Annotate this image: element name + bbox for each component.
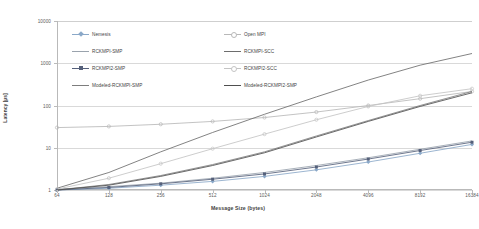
legend-item-open-mpi[interactable]: Open MPI xyxy=(224,26,354,43)
gridline-10000 xyxy=(58,21,472,22)
x-tick-mark xyxy=(420,190,421,193)
y-tick-label: 10 xyxy=(46,145,51,150)
legend-symbol-icon xyxy=(72,82,89,89)
legend-symbol-icon xyxy=(72,48,89,55)
y-tick-label: 10000 xyxy=(38,19,51,24)
x-tick-label: 128 xyxy=(105,193,113,198)
y-axis: 100001000100101 xyxy=(0,0,57,229)
gridline-10 xyxy=(58,148,472,149)
legend-label: RCKMPI2-SMP xyxy=(92,66,125,71)
x-tick-mark xyxy=(109,190,110,193)
x-tick-label: 512 xyxy=(209,193,217,198)
x-tick-label: 2048 xyxy=(311,193,322,198)
legend-label: Open MPI xyxy=(244,32,266,37)
x-tick-label: 256 xyxy=(157,193,165,198)
legend-symbol-icon xyxy=(72,65,89,72)
x-tick-label: 16384 xyxy=(465,193,478,198)
x-axis-title: Message Size (bytes) xyxy=(0,205,476,211)
x-tick-label: 8192 xyxy=(415,193,426,198)
legend-item-rckmpi2-scc[interactable]: RCKMPI2-SCC xyxy=(224,60,354,77)
y-tick-label: 1000 xyxy=(40,61,51,66)
x-tick-label: 64 xyxy=(54,193,59,198)
legend-item-modeled-rckmpi-smp[interactable]: Modeled-RCKMPI-SMP xyxy=(72,77,190,94)
legend-symbol-icon xyxy=(224,31,241,38)
legend-symbol-icon xyxy=(224,65,241,72)
chart-legend: NemesisOpen MPIRCKMPI-SMPRCKMPI-SCCRCKMP… xyxy=(72,26,352,94)
y-tick-label: 100 xyxy=(43,103,51,108)
legend-item-rckmpi-scc[interactable]: RCKMPI-SCC xyxy=(224,43,354,60)
x-tick-mark xyxy=(368,190,369,193)
legend-item-rckmpi-smp[interactable]: RCKMPI-SMP xyxy=(72,43,190,60)
legend-symbol-icon xyxy=(224,82,241,89)
legend-item-rckmpi2-smp[interactable]: RCKMPI2-SMP xyxy=(72,60,190,77)
legend-label: Modeled-RCKMPI2-SMP xyxy=(244,83,297,88)
y-tick-label: 1 xyxy=(48,188,51,193)
x-tick-label: 1024 xyxy=(259,193,270,198)
x-tick-mark xyxy=(213,190,214,193)
gridline-100 xyxy=(58,106,472,107)
x-tick-mark xyxy=(265,190,266,193)
y-axis-title: Latency [µs] xyxy=(2,73,8,143)
legend-label: Modeled-RCKMPI-SMP xyxy=(92,83,142,88)
x-tick-mark xyxy=(472,190,473,193)
legend-label: Nemesis xyxy=(92,32,111,37)
x-tick-mark xyxy=(57,190,58,193)
legend-item-nemesis[interactable]: Nemesis xyxy=(72,26,190,43)
legend-label: RCKMPI-SMP xyxy=(92,49,122,54)
legend-symbol-icon xyxy=(72,31,89,38)
legend-label: RCKMPI2-SCC xyxy=(244,66,277,71)
x-tick-mark xyxy=(161,190,162,193)
legend-symbol-icon xyxy=(224,48,241,55)
x-tick-mark xyxy=(316,190,317,193)
x-tick-label: 4096 xyxy=(363,193,374,198)
legend-label: RCKMPI-SCC xyxy=(244,49,274,54)
legend-item-modeled-rckmpi2-smp[interactable]: Modeled-RCKMPI2-SMP xyxy=(224,77,354,94)
